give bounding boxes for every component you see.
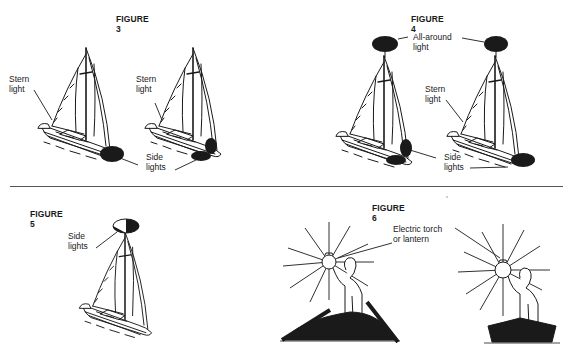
fig4-all-around-light-left [372,36,398,52]
section-divider [10,186,563,187]
side-lights-label: Side lights [146,152,166,172]
figure-title: FIGURE 5 [30,209,63,229]
all-around-light-label: All-around light [413,32,452,52]
figure-title: FIGURE 3 [116,14,149,34]
fig3-sailboat-right [145,48,221,161]
fig5-masthead-side-lights [113,219,139,233]
fig4-sailboat-right [447,56,535,167]
fig3-sailboat-left [38,48,124,162]
fig5-sailboat [79,232,151,337]
side-lights-label: Side lights [68,231,88,251]
illustrations [0,0,573,358]
stern-light-label: Stern light [136,74,156,94]
fig6-rowboat-right [455,224,560,343]
side-lights-label: Side lights [444,152,464,172]
figure-title: FIGURE 6 [372,203,405,223]
figure-title: FIGURE 4 [411,14,444,34]
fig6-rowboat-left [280,222,400,342]
stern-light-label: Stern light [9,74,29,94]
electric-torch-label: Electric torch or lantern [393,224,442,244]
fig4-all-around-light-right [484,36,508,52]
stern-light-label: Stern light [425,84,445,104]
fig4-sailboat-left [336,56,412,167]
